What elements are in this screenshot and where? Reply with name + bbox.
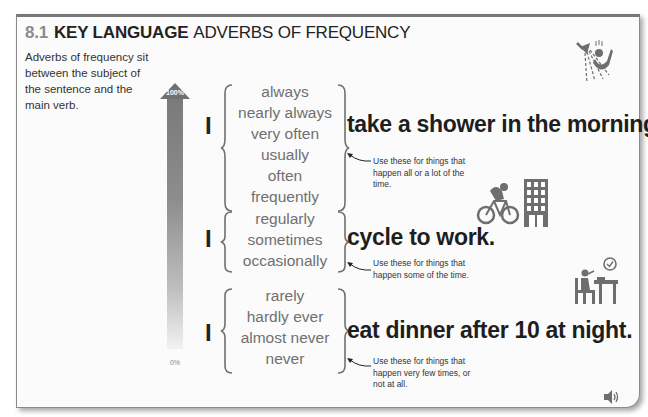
adverb: nearly always <box>229 102 341 123</box>
shower-icon <box>573 39 617 87</box>
usage-note: Use these for things that happen all or … <box>373 156 483 191</box>
note-pointer-arrow <box>345 151 373 165</box>
right-brace <box>336 83 350 213</box>
speaker-icon[interactable] <box>603 389 621 405</box>
cyclist-office-icon <box>476 179 550 227</box>
intro-text: Adverbs of frequency sit between the sub… <box>25 49 155 113</box>
title-subtitle: ADVERBS OF FREQUENCY <box>193 23 410 42</box>
example-phrase: eat dinner after 10 at night. <box>347 317 632 344</box>
adverb: usually <box>229 144 341 165</box>
example-phrase: take a shower in the morning. <box>347 111 648 138</box>
note-pointer-arrow <box>345 260 373 274</box>
arrow-shaft <box>167 99 183 349</box>
key-language-panel: 8.1KEY LANGUAGEADVERBS OF FREQUENCY Adve… <box>16 14 640 408</box>
example-phrase: cycle to work. <box>347 224 495 251</box>
adverb: never <box>229 348 341 369</box>
adverb: rarely <box>229 285 341 306</box>
adverb: very often <box>229 123 341 144</box>
adverb-list-medium: regularly sometimes occasionally <box>229 208 341 271</box>
late-dinner-icon <box>572 256 620 304</box>
scale-bottom-label: 0% <box>161 359 189 366</box>
pronoun: I <box>205 319 212 347</box>
adverb: hardly ever <box>229 306 341 327</box>
adverb: frequently <box>229 186 341 207</box>
adverb: sometimes <box>229 229 341 250</box>
pronoun: I <box>205 112 212 140</box>
note-pointer-arrow <box>345 356 373 370</box>
scale-top-label: 100% <box>161 89 189 96</box>
adverb: always <box>229 81 341 102</box>
title-key: KEY LANGUAGE <box>54 23 188 42</box>
adverb-list-low: rarely hardly ever almost never never <box>229 285 341 369</box>
adverb-list-high: always nearly always very often usually … <box>229 81 341 207</box>
frequency-scale-arrow: 100% 0% <box>156 83 196 373</box>
adverb: regularly <box>229 208 341 229</box>
usage-note: Use these for things that happen some of… <box>373 258 483 281</box>
adverb: often <box>229 165 341 186</box>
usage-note: Use these for things that happen very fe… <box>373 356 483 391</box>
adverb: almost never <box>229 327 341 348</box>
page-title: 8.1KEY LANGUAGEADVERBS OF FREQUENCY <box>25 23 410 43</box>
adverb: occasionally <box>229 250 341 271</box>
section-number: 8.1 <box>25 23 48 42</box>
pronoun: I <box>205 225 212 253</box>
